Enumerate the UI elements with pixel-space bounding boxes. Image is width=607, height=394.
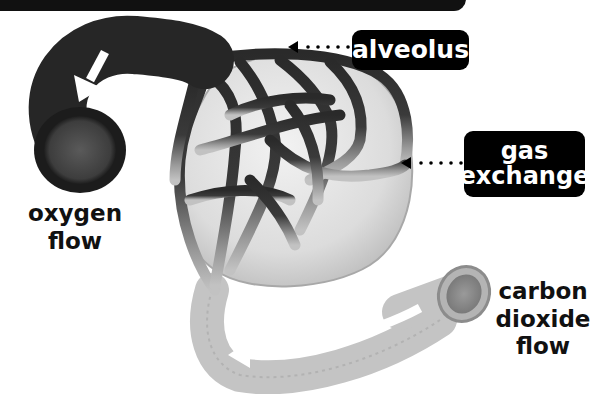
oxygen-caption-line2: flow — [15, 228, 135, 256]
oxygen-caption-line1: oxygen — [15, 200, 135, 228]
alveolus-label-text: alveolus — [352, 37, 469, 63]
alveolus-label: alveolus — [352, 30, 469, 70]
co2-caption-line1: carbon — [488, 278, 598, 306]
co2-caption-line2: dioxide — [488, 306, 598, 334]
gas-exchange-line1: gas — [501, 139, 549, 164]
oxygen-flow-caption: oxygen flow — [15, 200, 135, 255]
co2-caption-line3: flow — [488, 333, 598, 361]
carbon-dioxide-flow-caption: carbon dioxide flow — [488, 278, 598, 361]
gas-exchange-line2: exchange — [460, 164, 590, 189]
gas-exchange-pointer — [401, 157, 463, 169]
gas-exchange-label: gas exchange — [464, 131, 585, 197]
